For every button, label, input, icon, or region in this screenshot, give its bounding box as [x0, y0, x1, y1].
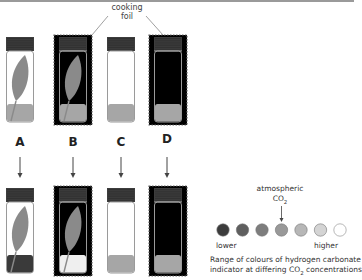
co2-subscript: 2: [284, 199, 288, 205]
atmospheric-co2-label: atmospheric CO2: [250, 184, 310, 207]
co2-text: CO: [273, 194, 284, 203]
caption-pre: indicator at differing CO: [210, 265, 300, 274]
colour-swatch-3: [256, 224, 268, 236]
indicator-liquid: [108, 104, 134, 122]
tube-a-start: [6, 37, 34, 122]
tube-b-start: [54, 35, 92, 125]
colour-swatch-4: [275, 224, 287, 236]
indicator-liquid: [155, 255, 181, 273]
atmospheric-label-line1: atmospheric: [250, 184, 310, 194]
colour-swatch-1: [217, 224, 229, 236]
foil-leader-line-d: [146, 16, 163, 35]
foil-leader-line-b: [92, 16, 108, 35]
tube-label-a: A: [10, 135, 30, 149]
atmospheric-label-line2: CO2: [250, 194, 310, 207]
indicator-liquid: [155, 104, 181, 122]
arrow-head-icon: [71, 173, 76, 178]
colour-swatch-7: [334, 224, 346, 236]
scale-high-label: higher: [314, 241, 338, 251]
tube-label-b: B: [63, 135, 83, 149]
tube-d-end: [149, 186, 187, 276]
colour-swatch-2: [236, 224, 248, 236]
tube-a-end: [6, 188, 34, 273]
tube-d-start: [149, 35, 187, 125]
cooking-foil-label: cooking foil: [107, 3, 147, 21]
key-caption: Range of colours of hydrogen carbonate i…: [210, 255, 362, 278]
tube-c-end: [107, 188, 135, 273]
arrow-head-icon: [119, 173, 124, 178]
arrow-head-icon: [165, 173, 170, 178]
caption-post: concentrations: [304, 265, 362, 274]
scale-low-label: lower: [216, 241, 237, 251]
colour-swatch-5: [295, 224, 307, 236]
key-caption-line1: Range of colours of hydrogen carbonate: [210, 255, 362, 265]
key-caption-line2: indicator at differing CO2 concentration…: [210, 265, 362, 278]
colour-swatch-6: [314, 224, 326, 236]
atmospheric-marker-arrowhead-icon: [280, 218, 284, 222]
tube-label-c: C: [111, 135, 131, 149]
tube-label-d: D: [157, 132, 177, 146]
tube-c-start: [107, 37, 135, 122]
indicator-liquid: [108, 255, 134, 273]
cooking-foil-label-line2: foil: [107, 12, 147, 21]
arrow-head-icon: [18, 173, 23, 178]
tube-b-end: [54, 186, 92, 276]
cooking-foil-label-line1: cooking: [107, 3, 147, 12]
